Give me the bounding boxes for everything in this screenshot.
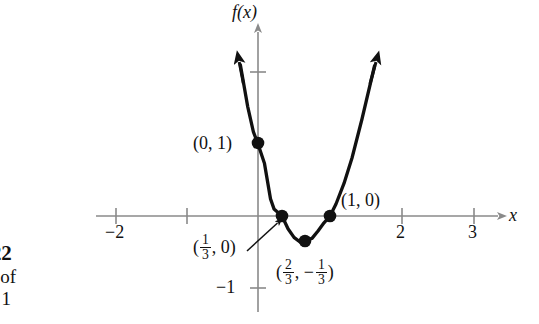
curve-arrow-right [370,62,376,84]
x-tick-label-2: 2 [396,222,405,243]
point-root-right [324,210,337,223]
comma: , [295,262,304,282]
fraction-denominator: 3 [200,247,211,262]
fraction-numerator: 1 [316,258,327,272]
y-value: 0 [221,237,230,257]
point-root-left [276,210,289,223]
graph-canvas [0,0,539,324]
fraction-numerator: 1 [200,233,211,247]
fraction-denominator: 3 [316,272,327,287]
point-vertex [299,235,312,248]
point-label-root-right: (1, 0) [341,190,380,211]
fraction-one-third: 13 [200,233,211,262]
paren-close: ) [328,262,334,282]
y-tick-label-minus1: −1 [216,277,235,298]
figure-caption: .22 h of + 1 [0,242,78,309]
caption-line-2: h of [0,266,78,288]
figure-root: f(x) x −2 2 3 −1 (0, 1) (1, 0) (13, 0) (… [0,0,539,324]
y-axis-label: f(x) [232,2,257,23]
fraction-numerator: 2 [283,258,294,272]
minus-sign: − [304,262,314,282]
paren-open: ( [193,237,199,257]
caption-line-3: + 1 [0,288,78,310]
paren-close: ) [230,237,236,257]
leader-arrow-root-left [247,223,278,251]
point-label-y-intercept: (0, 1) [193,133,232,154]
fraction-two-thirds: 23 [283,258,294,287]
comma: , [212,237,221,257]
fraction-one-third: 13 [316,258,327,287]
x-axis-label: x [509,205,517,226]
x-tick-label-3: 3 [468,222,477,243]
paren-open: ( [276,262,282,282]
curve-arrow-left [239,62,243,84]
point-label-vertex: (23, −13) [276,258,334,287]
point-label-root-left: (13, 0) [193,233,236,262]
point-y-intercept [252,137,265,150]
fraction-denominator: 3 [283,272,294,287]
caption-number: .22 [0,242,78,266]
x-tick-label-minus2: −2 [105,222,124,243]
